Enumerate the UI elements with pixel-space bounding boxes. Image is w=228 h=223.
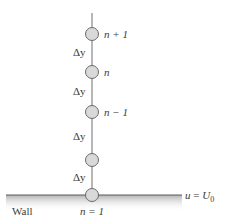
spacing-label: Δy: [73, 130, 86, 142]
node-label-n: n: [104, 66, 110, 78]
node-n-minus-1: [86, 106, 99, 119]
spacing-label: Δy: [73, 85, 86, 97]
spacing-label: Δy: [73, 171, 86, 183]
spacing-label: Δy: [73, 46, 86, 58]
node-n: [86, 66, 99, 79]
node-n-plus-1: [86, 28, 99, 41]
node-label-n-minus-1: n − 1: [104, 106, 128, 118]
boundary-condition-label: u = U0: [185, 189, 214, 204]
node-label-n-plus-1: n + 1: [104, 28, 128, 40]
bc-subscript: 0: [210, 195, 214, 204]
node-label-n-equals-1: n = 1: [80, 205, 104, 217]
node-2: [86, 154, 99, 167]
finite-difference-grid-diagram: n + 1 n n − 1 Δy Δy Δy Δy Wall n = 1 u =…: [0, 0, 228, 223]
wall-label: Wall: [12, 205, 33, 217]
bc-equals: =: [191, 189, 203, 201]
node-1: [86, 189, 99, 202]
